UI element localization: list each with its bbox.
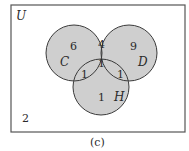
region-outside: 2: [22, 112, 29, 125]
set-d-label: D: [137, 55, 148, 69]
universe-label: U: [16, 9, 27, 23]
region-c-and-h: 1: [81, 68, 88, 81]
region-h-only: 1: [98, 91, 105, 104]
region-c-d-h: 1: [98, 57, 105, 70]
set-h-label: H: [113, 90, 125, 104]
region-c-only: 6: [70, 40, 77, 53]
region-d-only: 9: [130, 40, 137, 53]
caption: (c): [90, 136, 105, 149]
region-d-and-h: 1: [117, 68, 124, 81]
venn-diagram: U C D H 6 9 4 1 1 1 1 2 (c): [0, 0, 189, 151]
set-c-label: C: [60, 55, 69, 69]
region-c-and-d: 4: [98, 38, 105, 51]
